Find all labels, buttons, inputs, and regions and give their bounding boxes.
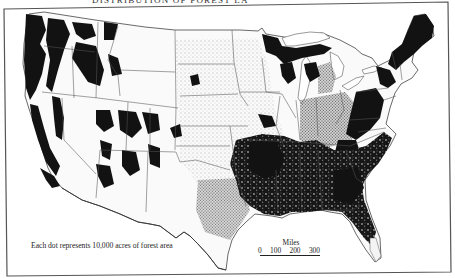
- map-legend: Each dot represents 10,000 acres of fore…: [31, 241, 173, 250]
- scale-tick-100: 100: [270, 246, 281, 255]
- scale-ticks: 0 100 200 300: [258, 246, 320, 255]
- scale-tick-200: 200: [289, 246, 300, 255]
- scale-tick-300: 300: [309, 246, 320, 255]
- scale-line: [260, 255, 320, 256]
- scale-tick-0: 0: [258, 246, 262, 255]
- forest-distribution-map: [0, 0, 455, 278]
- scale-bar: Miles 0 100 200 300: [258, 238, 320, 256]
